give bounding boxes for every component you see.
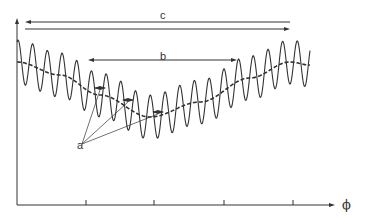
envelope-path bbox=[17, 62, 310, 117]
c-left-arrow-icon bbox=[25, 20, 31, 24]
dashed-envelope-curve bbox=[17, 62, 310, 117]
label-a: a bbox=[77, 140, 83, 151]
label-c: c bbox=[160, 10, 166, 21]
b-right-arrow-icon bbox=[231, 58, 237, 62]
dimension-arrows bbox=[25, 20, 290, 62]
a-leader-line bbox=[82, 114, 158, 144]
b-left-arrow-icon bbox=[88, 58, 94, 62]
diagram-svg bbox=[0, 0, 368, 218]
diagram-canvas: c b a ϕ bbox=[0, 0, 368, 218]
label-b: b bbox=[160, 51, 166, 62]
axes bbox=[15, 18, 335, 207]
y-axis-arrow-icon bbox=[15, 18, 19, 24]
x-axis-label-phi: ϕ bbox=[342, 198, 351, 211]
a-marker-arrow-icon bbox=[122, 98, 128, 102]
c-right-arrow-icon bbox=[284, 27, 290, 31]
x-axis-arrow-icon bbox=[329, 203, 335, 207]
